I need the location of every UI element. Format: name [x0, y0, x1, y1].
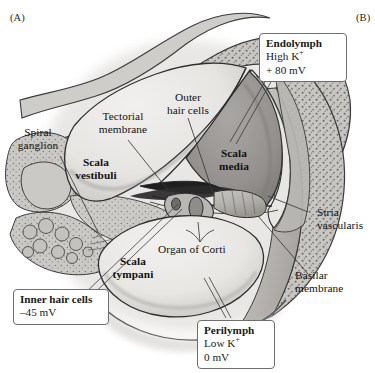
- inner-hair-cell: [172, 198, 181, 210]
- callout-perilymph: Perilymph Low K+ 0 mV: [197, 320, 275, 369]
- label-scala-media: Scala media: [206, 147, 262, 172]
- panel-label-a: (A): [10, 12, 25, 24]
- label-scala-vestibuli: Scala vestibuli: [64, 156, 128, 181]
- callout-inner-hair-cells: Inner hair cells –45 mV: [13, 289, 109, 325]
- label-stria-vascularis: Stria vascularis: [317, 206, 363, 231]
- callout-inner-hair-cells-title: Inner hair cells: [20, 293, 102, 306]
- label-organ-of-corti: Organ of Corti: [158, 243, 226, 256]
- label-basilar-membrane: Basilar membrane: [295, 269, 343, 294]
- label-tectorial-membrane: Tectorial membrane: [86, 110, 160, 135]
- label-spiral-ganglion: Spiral ganglion: [5, 126, 71, 151]
- label-scala-tympani: Scala tympani: [102, 255, 164, 280]
- callout-perilymph-potential: 0 mV: [204, 351, 268, 364]
- callout-endolymph-concentration: High K+: [266, 50, 340, 63]
- plus-sign-icon: +: [235, 336, 239, 345]
- callout-endolymph: Endolymph High K+ + 80 mV: [259, 33, 347, 82]
- callout-perilymph-concentration: Low K+: [204, 337, 268, 350]
- label-outer-hair-cells: Outer hair cells: [158, 91, 218, 116]
- panel-label-b: (B): [356, 12, 370, 24]
- callout-inner-hair-cells-potential: –45 mV: [20, 306, 102, 319]
- cochlea-figure: (A) (B) Spiral ganglion Tectorial membra…: [0, 0, 375, 373]
- plus-sign-icon: +: [299, 49, 303, 58]
- callout-endolymph-potential: + 80 mV: [266, 64, 340, 77]
